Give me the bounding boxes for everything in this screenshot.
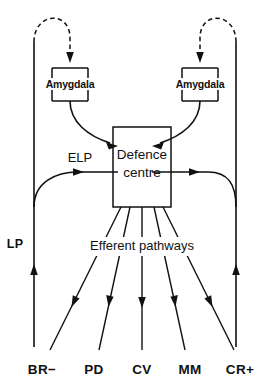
elp-label: ELP bbox=[68, 150, 93, 165]
dashed-arc-right-arrowhead bbox=[196, 52, 204, 63]
efferent-pathways-label: Efferent pathways bbox=[90, 238, 194, 253]
defence-to-right-line-arrow-group bbox=[152, 168, 236, 207]
dashed-feedback-arc-right bbox=[200, 18, 236, 57]
lp-right-ascending-line-group bbox=[232, 42, 240, 347]
efferent-pathway-cv-arrowhead bbox=[138, 297, 146, 308]
lp-label: LP bbox=[7, 237, 24, 251]
efferent-pathway-mm-line bbox=[154, 207, 185, 350]
efferent-pathway-br-group bbox=[50, 207, 121, 350]
output-label-mm: MM bbox=[178, 362, 201, 377]
dashed-feedback-arc-left-group bbox=[34, 18, 74, 63]
amygdala-right-to-defence-curve bbox=[160, 101, 200, 143]
efferent-pathway-cr-arrowhead bbox=[204, 295, 212, 307]
amygdala-left-to-defence-arrow-group bbox=[70, 101, 118, 150]
output-label-cv: CV bbox=[132, 362, 151, 377]
efferent-pathway-pd-group bbox=[99, 207, 130, 350]
dashed-feedback-arc-right-group bbox=[196, 18, 236, 63]
amygdala-right-label: Amygdala bbox=[176, 78, 225, 90]
amygdala-left-label: Amygdala bbox=[46, 78, 95, 90]
efferent-pathway-pd-arrowhead bbox=[106, 295, 113, 307]
efferent-pathway-cr-line bbox=[163, 207, 234, 350]
output-label-cr: CR+ bbox=[226, 362, 254, 377]
lp-left-up-arrowhead bbox=[30, 264, 38, 275]
amygdala-right-to-defence-arrow-group bbox=[152, 101, 200, 150]
defence-output-curve bbox=[152, 172, 236, 207]
defence-centre-label-line1: Defence bbox=[117, 147, 167, 162]
elp-input-arrowhead bbox=[73, 168, 84, 176]
efferent-pathway-mm-group bbox=[154, 207, 185, 350]
diagram-canvas: Amygdala Amygdala ELP bbox=[0, 0, 269, 386]
elp-input-arrow-group bbox=[34, 168, 118, 207]
dashed-arc-left-arrowhead bbox=[66, 52, 74, 63]
defence-output-arrowhead bbox=[189, 168, 200, 176]
amygdala-left-to-defence-curve bbox=[70, 101, 110, 143]
efferent-pathway-br-line bbox=[50, 207, 121, 350]
efferent-pathway-cv-group bbox=[138, 207, 146, 350]
lp-right-up-arrowhead bbox=[232, 264, 240, 275]
dashed-feedback-arc-left bbox=[34, 18, 70, 57]
defence-centre-label-line2: centre bbox=[123, 165, 161, 180]
elp-input-curve bbox=[34, 172, 118, 207]
diagram-svg: Amygdala Amygdala ELP bbox=[0, 0, 269, 386]
efferent-pathway-br-arrowhead bbox=[72, 295, 80, 307]
output-label-pd: PD bbox=[84, 362, 103, 377]
output-label-br: BR− bbox=[28, 362, 56, 377]
efferent-pathway-mm-arrowhead bbox=[170, 295, 177, 307]
efferent-pathway-cr-group bbox=[163, 207, 234, 350]
efferent-pathway-pd-line bbox=[99, 207, 130, 350]
